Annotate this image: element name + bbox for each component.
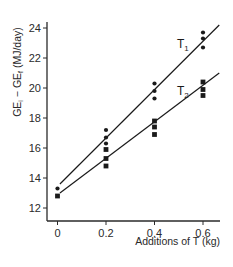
data-point-t2: [201, 80, 206, 85]
data-point-t1: [152, 96, 156, 100]
data-point-t2: [201, 93, 206, 98]
series-label-t1: T1: [177, 37, 189, 53]
data-point-t2: [55, 194, 60, 199]
data-point-t2: [152, 125, 157, 130]
data-point-t1: [152, 81, 156, 85]
data-point-t1: [55, 186, 59, 190]
fit-line-t1: [60, 25, 219, 184]
y-tick-label: 20: [29, 82, 41, 94]
y-tick-label: 18: [29, 112, 41, 124]
data-point-t1: [104, 141, 108, 145]
series-label-t2: T2: [177, 84, 189, 100]
y-tick-label: 12: [29, 202, 41, 214]
x-tick-label: 0: [54, 227, 60, 239]
y-axis-title: GEi − GEf (MJ/day): [11, 27, 24, 117]
data-point-t1: [104, 128, 108, 132]
y-tick-label: 14: [29, 172, 41, 184]
data-point-t2: [152, 132, 157, 137]
fit-lines: [60, 25, 219, 193]
data-point-t1: [201, 45, 205, 49]
data-point-t2: [104, 147, 109, 152]
fit-line-t2: [60, 73, 219, 193]
x-tick-label: 0.2: [98, 227, 113, 239]
data-point-t2: [104, 156, 109, 161]
scatter-chart: 1214161820222400.20.40.6 T1 T2 Additions…: [0, 0, 233, 267]
y-tick-label: 24: [29, 22, 41, 34]
y-tick-label: 16: [29, 142, 41, 154]
data-point-t2: [152, 119, 157, 124]
data-point-t1: [152, 89, 156, 93]
data-point-t2: [104, 164, 109, 169]
data-point-t1: [201, 36, 205, 40]
data-point-t2: [201, 87, 206, 92]
axes: 1214161820222400.20.40.6: [29, 22, 220, 239]
data-point-t1: [104, 135, 108, 139]
y-tick-label: 22: [29, 52, 41, 64]
data-point-t1: [201, 30, 205, 34]
x-axis-title: Additions of T (kg): [135, 235, 220, 247]
